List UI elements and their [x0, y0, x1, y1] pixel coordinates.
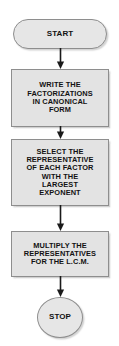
flowchart-node-stop: STOP [37, 297, 83, 338]
flowchart-node-select-representative: SELECT THE REPRESENTATIVE OF EACH FACTOR… [11, 139, 109, 206]
flowchart-node-multiply-label: MULTIPLY THE REPRESENTATIVES FOR THE L.C… [24, 242, 96, 267]
flowchart-node-start-label: START [47, 30, 74, 39]
down-arrow-icon [56, 205, 65, 232]
flowchart-node-select-label: SELECT THE REPRESENTATIVE OF EACH FACTOR… [26, 148, 93, 198]
connector-arrow-multiply-to-stop [56, 276, 65, 298]
down-arrow-icon [56, 276, 65, 298]
flowchart-node-write-label: WRITE THE FACTORIZATIONS IN CANONICAL FO… [27, 81, 93, 114]
down-arrow-icon [56, 48, 65, 70]
flowchart-diagram: START WRITE THE FACTORIZATIONS IN CANONI… [0, 0, 119, 346]
flowchart-node-write-factorizations: WRITE THE FACTORIZATIONS IN CANONICAL FO… [11, 69, 109, 127]
flowchart-node-stop-label: STOP [49, 313, 71, 322]
connector-arrow-write-to-select [56, 126, 65, 140]
connector-arrow-start-to-write [56, 48, 65, 70]
flowchart-node-multiply-representatives: MULTIPLY THE REPRESENTATIVES FOR THE L.C… [11, 231, 109, 277]
down-arrow-icon [56, 126, 65, 140]
flowchart-node-start: START [13, 19, 107, 49]
connector-arrow-select-to-multiply [56, 205, 65, 232]
